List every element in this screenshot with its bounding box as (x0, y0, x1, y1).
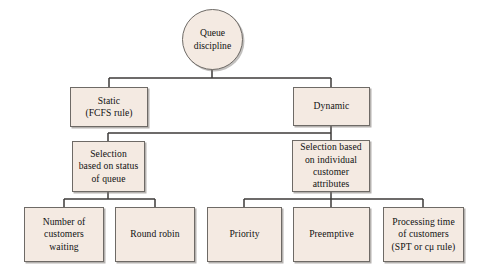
node-preemptive[interactable]: Preemptive (293, 207, 370, 262)
node-number-of-customers-waiting-label: Number of customers waiting (25, 216, 103, 253)
node-round-robin-label: Round robin (116, 228, 194, 240)
node-round-robin[interactable]: Round robin (115, 207, 195, 262)
node-queue-discipline[interactable]: Queue discipline (182, 9, 243, 70)
node-static[interactable]: Static (FCFS rule) (70, 87, 148, 127)
node-processing-time-of-customers-label: Processing time of customers (SPT or cμ … (384, 216, 463, 253)
node-dynamic-label: Dynamic (294, 100, 369, 112)
node-priority[interactable]: Priority (207, 207, 282, 262)
node-priority-label: Priority (208, 228, 281, 240)
node-preemptive-label: Preemptive (294, 228, 369, 240)
node-queue-discipline-label: Queue discipline (194, 27, 231, 52)
node-selection-status-queue[interactable]: Selection based on status of queue (72, 141, 145, 192)
node-dynamic[interactable]: Dynamic (293, 87, 370, 126)
node-number-of-customers-waiting[interactable]: Number of customers waiting (24, 207, 104, 262)
node-selection-status-queue-label: Selection based on status of queue (73, 148, 144, 185)
node-static-label: Static (FCFS rule) (71, 95, 147, 120)
node-processing-time-of-customers[interactable]: Processing time of customers (SPT or cμ … (383, 207, 464, 262)
node-selection-individual-attributes-label: Selection based on individual customer a… (293, 141, 369, 191)
diagram-canvas: Queue discipline Static (FCFS rule) Dyna… (0, 0, 483, 272)
node-selection-individual-attributes[interactable]: Selection based on individual customer a… (292, 140, 370, 192)
